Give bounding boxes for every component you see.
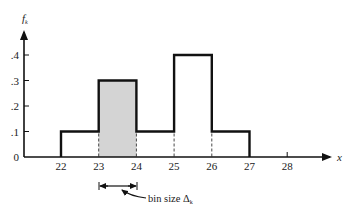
x-tick-label: 28 <box>282 160 294 172</box>
bin-size-label: bin size Δk <box>148 193 193 205</box>
x-tick-label: 22 <box>56 160 67 172</box>
bin-size-annotation: bin size Δk <box>99 182 193 205</box>
y-tick-label: 0 <box>14 151 20 163</box>
x-tick-label: 26 <box>206 160 218 172</box>
y-ticks: 0.1.2.3.4 <box>11 49 29 163</box>
histogram-outline <box>61 55 250 157</box>
x-axis-label: x <box>336 151 342 163</box>
histogram-chart: 0.1.2.3.4 22232425262728 fk x bin size Δ… <box>0 0 354 216</box>
y-axis-label: fk <box>22 12 28 25</box>
x-tick-label: 24 <box>131 160 143 172</box>
histogram-bar-shaded <box>99 81 137 158</box>
y-tick-label: .3 <box>11 75 20 87</box>
y-tick-label: .2 <box>11 100 19 112</box>
x-tick-label: 23 <box>93 160 105 172</box>
x-tick-label: 25 <box>169 160 181 172</box>
x-tick-label: 27 <box>244 160 256 172</box>
y-tick-label: .1 <box>11 126 19 138</box>
y-tick-label: .4 <box>11 49 20 61</box>
histogram-bars <box>61 55 250 157</box>
